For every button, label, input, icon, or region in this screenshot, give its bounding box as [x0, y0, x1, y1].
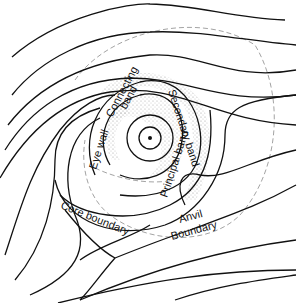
label-core-boundary: Core boundary [59, 199, 131, 238]
hurricane-rainband-diagram: Eye wall Connecting band Secondary band … [0, 0, 301, 303]
label-anvil-boundary-2: Boundary [169, 218, 218, 242]
storm-center-dot [148, 136, 152, 140]
